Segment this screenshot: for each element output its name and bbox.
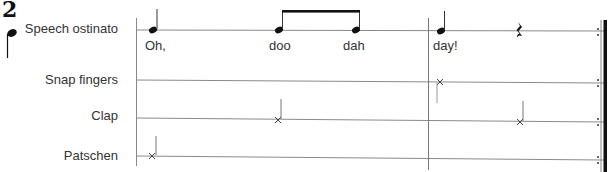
quarter-note-oh bbox=[148, 9, 158, 34]
quarter-note-icon bbox=[6, 28, 18, 58]
end-thick-barline bbox=[604, 20, 608, 172]
quarter-rest-icon bbox=[517, 22, 523, 38]
patschen-x-note bbox=[149, 136, 156, 159]
rhythm-score bbox=[0, 0, 611, 172]
quarter-note-day bbox=[436, 11, 446, 35]
repeat-dots bbox=[597, 28, 599, 164]
snap-x-note bbox=[437, 79, 443, 103]
staff-lines bbox=[136, 30, 604, 160]
